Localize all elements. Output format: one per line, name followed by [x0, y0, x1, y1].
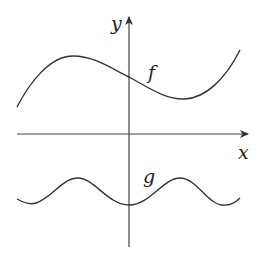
curve-g-label: g	[143, 167, 155, 186]
graph-canvas	[0, 0, 266, 258]
x-axis-label: x	[238, 143, 249, 162]
function-graph-figure: y x f g	[0, 0, 266, 258]
curve-f-label: f	[148, 63, 155, 82]
y-axis-label: y	[111, 14, 122, 33]
